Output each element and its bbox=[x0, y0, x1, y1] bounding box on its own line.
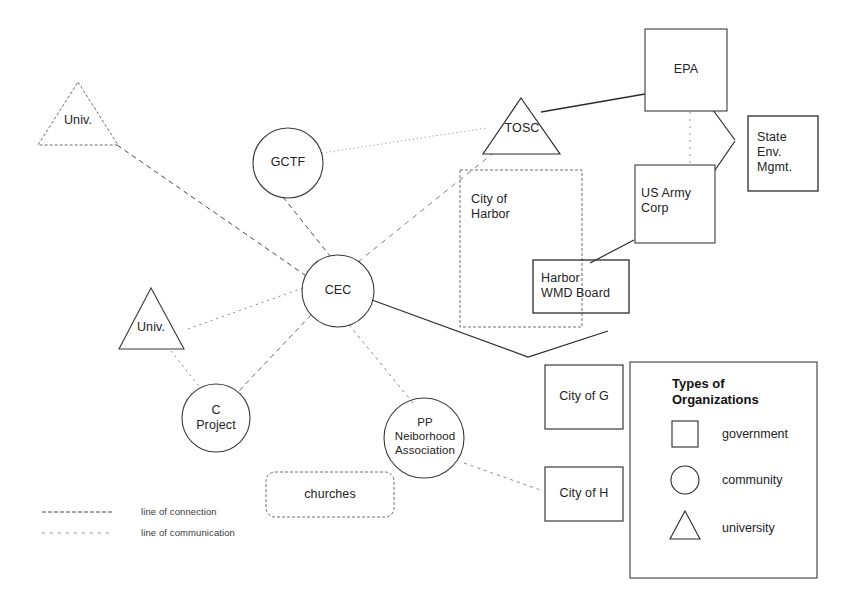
node-shape-c-project[interactable] bbox=[182, 384, 250, 452]
legend-label-community: community bbox=[722, 473, 782, 487]
edge-cec-to-harbor-wmd bbox=[372, 300, 608, 357]
edge-gctf-to-cec bbox=[283, 197, 330, 256]
legend-square-icon bbox=[672, 421, 698, 447]
edge-cec-to-pp-assoc bbox=[349, 325, 414, 404]
node-shape-city-g[interactable] bbox=[545, 365, 623, 429]
edge-univ-bottom-to-c-project bbox=[171, 351, 202, 390]
node-shape-univ-bottom[interactable] bbox=[119, 288, 184, 349]
legend-circle-icon bbox=[671, 466, 699, 494]
edge-us-army-to-state-env bbox=[713, 141, 735, 173]
edge-cec-to-univ-bottom bbox=[185, 288, 303, 330]
line-key-label-connection: line of connection bbox=[141, 506, 217, 517]
network-diagram-canvas: Univ. Univ. TOSC GCTF CEC C Project PP N… bbox=[0, 0, 859, 611]
node-shape-cec[interactable] bbox=[302, 255, 374, 327]
legend-label-university: university bbox=[722, 521, 775, 535]
line-key-vector-layer bbox=[42, 512, 114, 533]
node-shape-pp-assoc[interactable] bbox=[384, 398, 464, 478]
node-shape-city-harbor[interactable] bbox=[460, 170, 582, 327]
node-shape-us-army[interactable] bbox=[635, 165, 715, 243]
line-key-label-communication: line of communication bbox=[141, 527, 235, 538]
edge-tosc-to-epa bbox=[541, 94, 645, 112]
node-shape-epa[interactable] bbox=[645, 29, 727, 111]
edge-pp-assoc-to-city-h bbox=[464, 463, 543, 491]
node-shape-churches[interactable] bbox=[266, 472, 394, 517]
node-shape-city-h[interactable] bbox=[545, 467, 623, 521]
node-shape-gctf[interactable] bbox=[253, 128, 323, 198]
diagram-vector-layer bbox=[0, 0, 859, 611]
edge-gctf-to-tosc bbox=[322, 128, 487, 153]
edge-cec-to-tosc bbox=[358, 150, 497, 262]
edge-epa-to-state-env bbox=[713, 110, 735, 140]
legend-label-government: government bbox=[722, 427, 788, 441]
edge-cec-to-c-project bbox=[238, 315, 311, 392]
legend-title: Types of Organizations bbox=[672, 376, 802, 408]
node-shape-tosc[interactable] bbox=[483, 98, 560, 154]
node-shape-state-env[interactable] bbox=[748, 116, 818, 191]
node-shape-harbor-wmd[interactable] bbox=[533, 260, 629, 313]
node-shape-univ-top[interactable] bbox=[38, 82, 118, 145]
